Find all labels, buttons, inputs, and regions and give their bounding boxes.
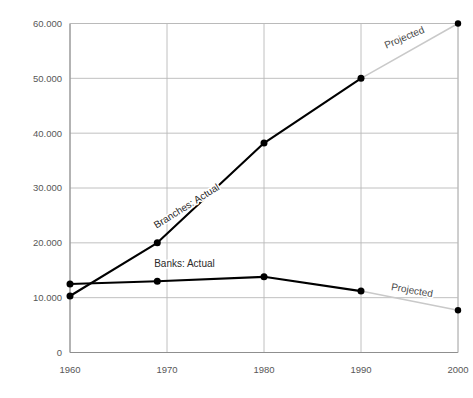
data-point-marker [261, 140, 268, 147]
data-point-marker [455, 307, 461, 313]
x-tick-label-2000: 2000 [447, 364, 468, 375]
x-tick-label-1980: 1980 [253, 364, 274, 375]
data-point-marker [358, 288, 365, 295]
y-tick-label-40000: 40.000 [33, 128, 62, 139]
x-tick-label-1970: 1970 [156, 364, 177, 375]
line-chart: 010.00020.00030.00040.00050.00060.000 19… [0, 0, 473, 398]
chart-background [0, 0, 473, 398]
chart-container: 010.00020.00030.00040.00050.00060.000 19… [0, 0, 473, 398]
data-point-marker [154, 239, 161, 246]
y-tick-label-50000: 50.000 [33, 73, 62, 84]
data-point-marker [154, 278, 161, 285]
y-tick-label-10000: 10.000 [33, 292, 62, 303]
x-tick-label-1990: 1990 [350, 364, 371, 375]
data-point-marker [455, 20, 461, 26]
y-tick-label-60000: 60.000 [33, 18, 62, 29]
y-tick-label-20000: 20.000 [33, 237, 62, 248]
y-tick-label-30000: 30.000 [33, 182, 62, 193]
data-point-marker [67, 280, 74, 287]
data-point-marker [358, 75, 365, 82]
data-point-marker [261, 273, 268, 280]
y-tick-label-0: 0 [57, 347, 62, 358]
x-tick-label-1960: 1960 [59, 364, 80, 375]
annotation-label-banks-actual: Banks: Actual [154, 258, 215, 269]
data-point-marker [67, 293, 74, 300]
